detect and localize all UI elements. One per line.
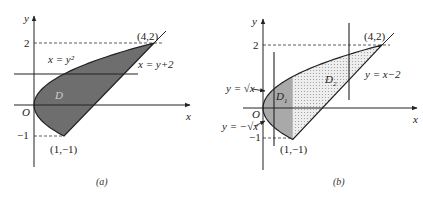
curve-lower-label: y = −√x <box>221 120 258 132</box>
line-label: x = y+2 <box>137 58 174 70</box>
d2-main: D <box>324 73 333 85</box>
point-label-top: (4,2) <box>137 30 158 43</box>
point-label-bottom: (1,−1) <box>50 143 78 156</box>
line-label: y = x−2 <box>364 68 401 80</box>
panel-b: y x O 2 −1 D1 D2 y = √x y = −√x y = x−2 … <box>221 15 418 188</box>
d1-subscript: 1 <box>284 97 288 105</box>
tick-label-2: 2 <box>24 37 30 49</box>
tick-label-minus1: −1 <box>17 129 29 141</box>
point-label-bottom: (1,−1) <box>280 143 308 156</box>
origin-label: O <box>22 106 30 118</box>
point-label-top: (4,2) <box>364 30 385 43</box>
origin-label: O <box>252 108 260 120</box>
curve-upper-label: y = √x <box>225 82 255 94</box>
curve-label: x = y² <box>47 53 75 65</box>
y-axis-label: y <box>23 12 29 24</box>
d2-subscript: 2 <box>333 80 337 88</box>
tick-label-2: 2 <box>253 39 259 51</box>
tick-label-minus1: −1 <box>249 131 261 143</box>
caption-a: (a) <box>96 176 108 188</box>
d1-main: D <box>275 90 284 102</box>
y-axis-label: y <box>251 15 257 27</box>
figure: y x O 2 −1 D x = y² x = y+2 (4,2) (1,−1)… <box>0 0 423 198</box>
caption-b: (b) <box>333 176 345 188</box>
x-axis-label: x <box>412 113 418 125</box>
region-label-d: D <box>54 89 63 101</box>
x-axis-label: x <box>185 110 191 122</box>
panel-a: y x O 2 −1 D x = y² x = y+2 (4,2) (1,−1)… <box>14 12 191 188</box>
